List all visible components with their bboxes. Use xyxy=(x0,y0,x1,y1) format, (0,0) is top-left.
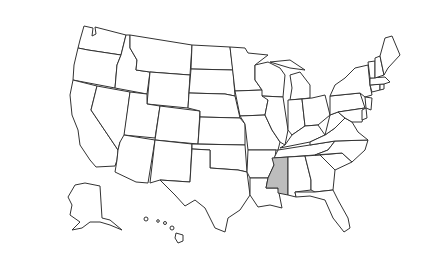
state-wyoming[interactable] xyxy=(147,72,190,108)
state-new-jersey[interactable] xyxy=(365,97,372,110)
state-hawaii[interactable] xyxy=(144,217,183,243)
state-new-york[interactable] xyxy=(330,65,372,97)
state-arizona[interactable] xyxy=(115,135,155,183)
state-maine[interactable] xyxy=(380,36,400,75)
state-ohio[interactable] xyxy=(302,95,330,126)
state-kansas[interactable] xyxy=(198,117,245,145)
state-florida[interactable] xyxy=(295,190,350,232)
state-south-dakota[interactable] xyxy=(189,69,235,96)
state-rhode-island[interactable] xyxy=(380,84,384,90)
state-north-dakota[interactable] xyxy=(191,45,233,70)
state-new-mexico[interactable] xyxy=(150,140,192,183)
state-colorado[interactable] xyxy=(155,106,200,144)
state-delaware[interactable] xyxy=(362,108,367,120)
state-alaska[interactable] xyxy=(68,183,122,230)
us-map xyxy=(0,0,421,259)
state-montana[interactable] xyxy=(130,35,192,75)
